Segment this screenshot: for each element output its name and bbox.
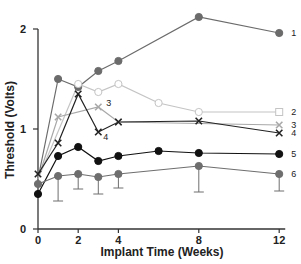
data-point [75,91,81,97]
data-point [276,150,283,157]
data-point [155,147,162,154]
data-point [55,172,62,179]
series-label-1: 1 [291,28,296,38]
y-tick-label: 1 [20,123,26,135]
series-label-6: 6 [291,169,296,179]
data-point [115,80,122,87]
data-point [276,170,283,177]
y-tick-label: 2 [20,23,26,35]
series-label-4: 4 [291,128,296,138]
data-point [195,162,202,169]
series-inline-label-3: 3 [106,98,111,108]
data-point [95,129,101,135]
data-point [75,170,82,177]
y-axis-label: Threshold (Volts) [3,81,17,179]
series-inline-label-4: 4 [103,132,108,142]
axes: 012024812 [20,23,285,246]
series-label-2: 2 [291,107,296,117]
data-point [115,152,122,159]
data-point [55,75,62,82]
data-point [195,13,202,20]
data-point [276,29,283,36]
x-axis-label: Implant Time (Weeks) [101,245,224,259]
series-line-6 [38,166,279,184]
data-point [195,149,202,156]
data-point [95,88,102,95]
data-point [95,157,102,164]
data-point [34,180,41,187]
data-point [115,170,122,177]
data-point [95,67,102,74]
x-tick-label: 0 [35,234,41,246]
series-line-3 [38,107,279,179]
series-line-2 [38,84,279,179]
x-tick-label: 2 [75,234,81,246]
data-point [75,143,82,150]
data-point [55,140,61,146]
data-point [115,57,122,64]
y-tick-label: 0 [20,223,26,235]
data-point [195,108,202,115]
data-point [276,109,283,116]
data-point [95,173,102,180]
threshold-chart: 012024812 12345634 Implant Time (Weeks) … [0,0,301,264]
data-point [75,80,82,87]
x-tick-label: 12 [273,234,285,246]
data-point [55,152,62,159]
data-point [155,99,162,106]
data-point [34,190,41,197]
series-label-5: 5 [291,149,296,159]
